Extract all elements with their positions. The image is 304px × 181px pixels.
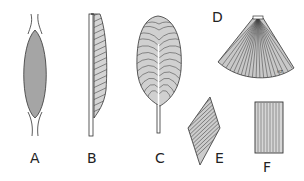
label-d: D (212, 10, 223, 24)
muscle-f-quadrate (255, 102, 283, 153)
muscle-b-unipennate (89, 8, 110, 136)
muscle-shapes-figure: HZ A B C D E F (0, 0, 304, 181)
label-a: A (30, 151, 40, 165)
label-b: B (87, 151, 97, 165)
muscle-d-triangular: HZ (216, 16, 296, 81)
artist-signature: HZ (277, 69, 283, 74)
muscle-a-fusiform (23, 14, 47, 136)
label-e: E (215, 151, 224, 165)
label-f: F (263, 160, 271, 174)
figure-drawing: HZ (0, 0, 304, 181)
label-c: C (155, 151, 165, 165)
muscle-c-bipennate (136, 16, 182, 133)
